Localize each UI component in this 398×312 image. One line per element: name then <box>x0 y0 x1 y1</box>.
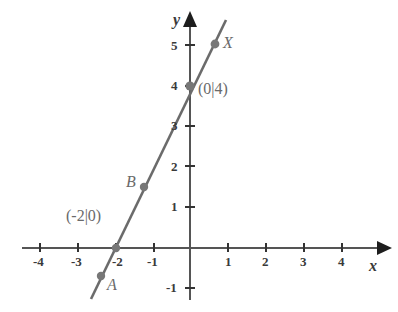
data-point-intercept-x <box>112 244 120 252</box>
x-tick-label-2: 2 <box>262 255 269 268</box>
annotation-y-intercept: (0|4) <box>198 81 228 97</box>
data-point-x <box>211 40 220 49</box>
data-point-b <box>140 183 148 191</box>
annotation-x-intercept: (-2|0) <box>66 208 101 224</box>
point-label-x: X <box>223 35 233 51</box>
y-tick-label-1: 1 <box>171 200 178 213</box>
y-tick-label-2: 2 <box>171 160 178 173</box>
data-point-intercept-y <box>185 81 194 90</box>
x-tick-label--2: -2 <box>112 255 123 268</box>
x-tick-label--3: -3 <box>71 255 82 268</box>
point-label-b: B <box>126 174 136 190</box>
point-label-a: A <box>107 277 117 293</box>
x-tick-label-4: 4 <box>338 255 345 268</box>
x-axis-label: x <box>369 258 377 274</box>
y-tick-label-3: 3 <box>171 119 178 132</box>
x-tick-label-1: 1 <box>225 255 232 268</box>
y-tick-label-4: 4 <box>171 79 178 92</box>
coordinate-plot: -4 -3 -2 -1 1 2 3 4 5 4 3 2 1 -1 x y A B… <box>0 0 398 312</box>
x-axis-arrow-icon <box>377 241 392 255</box>
y-tick-label-5: 5 <box>171 39 178 52</box>
x-tick-label--1: -1 <box>147 255 158 268</box>
x-tick-label--4: -4 <box>33 255 44 268</box>
x-tick-label-3: 3 <box>300 255 307 268</box>
data-point-a <box>97 272 105 280</box>
y-tick-label--1: -1 <box>166 281 177 294</box>
y-axis-arrow-icon <box>183 11 197 27</box>
y-axis-label: y <box>173 12 180 28</box>
